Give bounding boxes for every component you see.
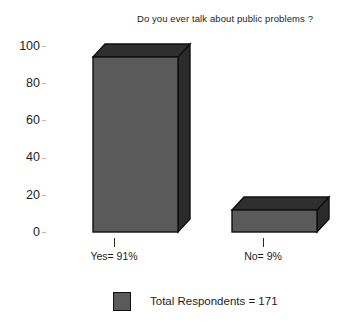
y-axis-tick-0: 0: [0, 226, 40, 239]
x-axis-tick-mark: [114, 238, 115, 247]
plot-area: 100 80 60 40 20 0: [0, 0, 352, 326]
y-axis-tick-mark: [42, 232, 46, 233]
y-axis-tick-mark: [42, 158, 46, 159]
bar-no: [232, 197, 330, 234]
y-axis-tick-20: 20: [0, 189, 40, 202]
y-axis-tick-80: 80: [0, 77, 40, 90]
y-axis-tick-label: 40: [0, 151, 40, 164]
y-axis-tick-label: 80: [0, 77, 40, 90]
legend-label-total-respondents: Total Respondents = 171: [150, 295, 278, 308]
chart-container: Do you ever talk about public problems ?…: [0, 0, 352, 326]
y-axis-tick-mark: [42, 195, 46, 196]
y-axis-tick-60: 60: [0, 114, 40, 127]
y-axis-tick-100: 100: [0, 40, 40, 53]
y-axis-tick-mark: [42, 83, 46, 84]
y-axis-tick-mark: [42, 120, 46, 121]
bar-top-face: [93, 44, 190, 57]
bar-side-face: [178, 44, 190, 232]
bar-top-face: [232, 197, 329, 210]
y-axis-tick-label: 60: [0, 114, 40, 127]
bar-front-face: [232, 210, 317, 232]
x-axis-label-yes: Yes= 91%: [54, 250, 174, 262]
legend-swatch-total-respondents: [113, 292, 131, 311]
y-axis-tick-label: 0: [0, 226, 40, 239]
x-axis-label-no: No= 9%: [203, 250, 323, 262]
chart-legend: Total Respondents = 171: [113, 292, 278, 311]
bar-front-face: [93, 57, 178, 232]
x-axis-tick-mark: [263, 238, 264, 247]
y-axis-tick-label: 100: [0, 40, 40, 53]
y-axis-tick-label: 20: [0, 189, 40, 202]
y-axis-tick-mark: [42, 46, 46, 47]
bar-yes: [93, 44, 191, 234]
y-axis-tick-40: 40: [0, 151, 40, 164]
